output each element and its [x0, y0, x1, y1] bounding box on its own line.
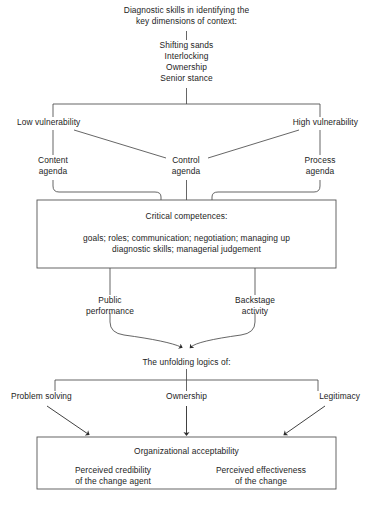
- label-ownership: Ownership: [152, 392, 221, 402]
- label-process-agenda-line-2: agenda: [291, 167, 349, 177]
- connector-problem-solving-arrow: [47, 406, 88, 434]
- connector-public-arrow: [110, 313, 181, 347]
- label-low-vulnerability: Low vulnerability: [17, 118, 127, 128]
- acceptability-right-line-1: Perceived effectiveness: [196, 466, 326, 476]
- label-public-performance-line-2: performance: [68, 307, 152, 317]
- dimension-interlocking: Interlocking: [127, 52, 246, 62]
- acceptability-right-line-2: of the change: [196, 477, 326, 487]
- label-public-performance-line-1: Public: [76, 296, 144, 306]
- critical-competences-body-line-2: diagnostic skills; managerial judgement: [47, 245, 326, 255]
- critical-competences-heading: Critical competences:: [47, 212, 326, 222]
- label-process-agenda-line-1: Process: [291, 156, 349, 166]
- dimension-ownership: Ownership: [127, 63, 246, 73]
- figure-canvas: Diagnostic skills in identifying the key…: [0, 0, 373, 515]
- acceptability-left-line-1: Perceived credibility: [52, 466, 174, 476]
- connector-brace-left: [53, 180, 161, 200]
- acceptability-left-line-2: of the change agent: [52, 477, 174, 487]
- label-legitimacy: Legitimacy: [273, 392, 360, 402]
- dimension-senior-stance: Senior stance: [127, 74, 246, 84]
- connector-brace-right: [212, 180, 320, 200]
- label-high-vulnerability: High vulnerability: [248, 118, 358, 128]
- label-unfolding-logics: The unfolding logics of:: [117, 358, 256, 368]
- critical-competences-body-line-1: goals; roles; communication; negotiation…: [47, 234, 326, 244]
- label-content-agenda-line-2: agenda: [24, 167, 82, 177]
- label-control-agenda-line-1: Control: [157, 156, 215, 166]
- connector-backstage-arrow: [191, 313, 255, 347]
- figure-title-line-1: Diagnostic skills in identifying the: [87, 5, 286, 16]
- label-problem-solving: Problem solving: [11, 392, 111, 402]
- connector-high-to-control: [208, 130, 299, 158]
- figure-title-line-2: key dimensions of context:: [87, 16, 286, 27]
- label-control-agenda-line-2: agenda: [157, 167, 215, 177]
- acceptability-heading: Organizational acceptability: [47, 447, 326, 457]
- figure-caption: Figure 1.3: [37, 505, 337, 515]
- label-content-agenda-line-1: Content: [24, 156, 82, 166]
- label-backstage-activity-line-1: Backstage: [222, 296, 288, 306]
- dimension-shifting-sands: Shifting sands: [127, 41, 246, 51]
- label-backstage-activity-line-2: activity: [222, 307, 288, 317]
- connector-legitimacy-arrow: [285, 406, 325, 434]
- connector-low-to-control: [74, 130, 166, 158]
